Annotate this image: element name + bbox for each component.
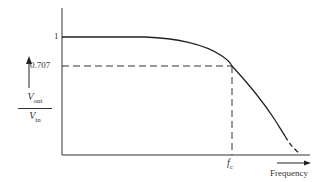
y-label-denominator: Vin [18, 110, 52, 126]
y-axis-label: Vout Vin [18, 91, 52, 126]
y-tick-0707: 0.707 [30, 60, 50, 70]
response-curve-extrapolated [285, 136, 299, 153]
x-tick-fc: fc [227, 157, 233, 171]
x-arrow-head-icon [304, 161, 311, 166]
y-label-numerator: Vout [18, 91, 52, 107]
y-tick-1: 1 [54, 31, 59, 41]
x-axis-label: Frequency [270, 168, 308, 178]
fraction-bar [18, 108, 52, 109]
response-curve [62, 37, 285, 136]
